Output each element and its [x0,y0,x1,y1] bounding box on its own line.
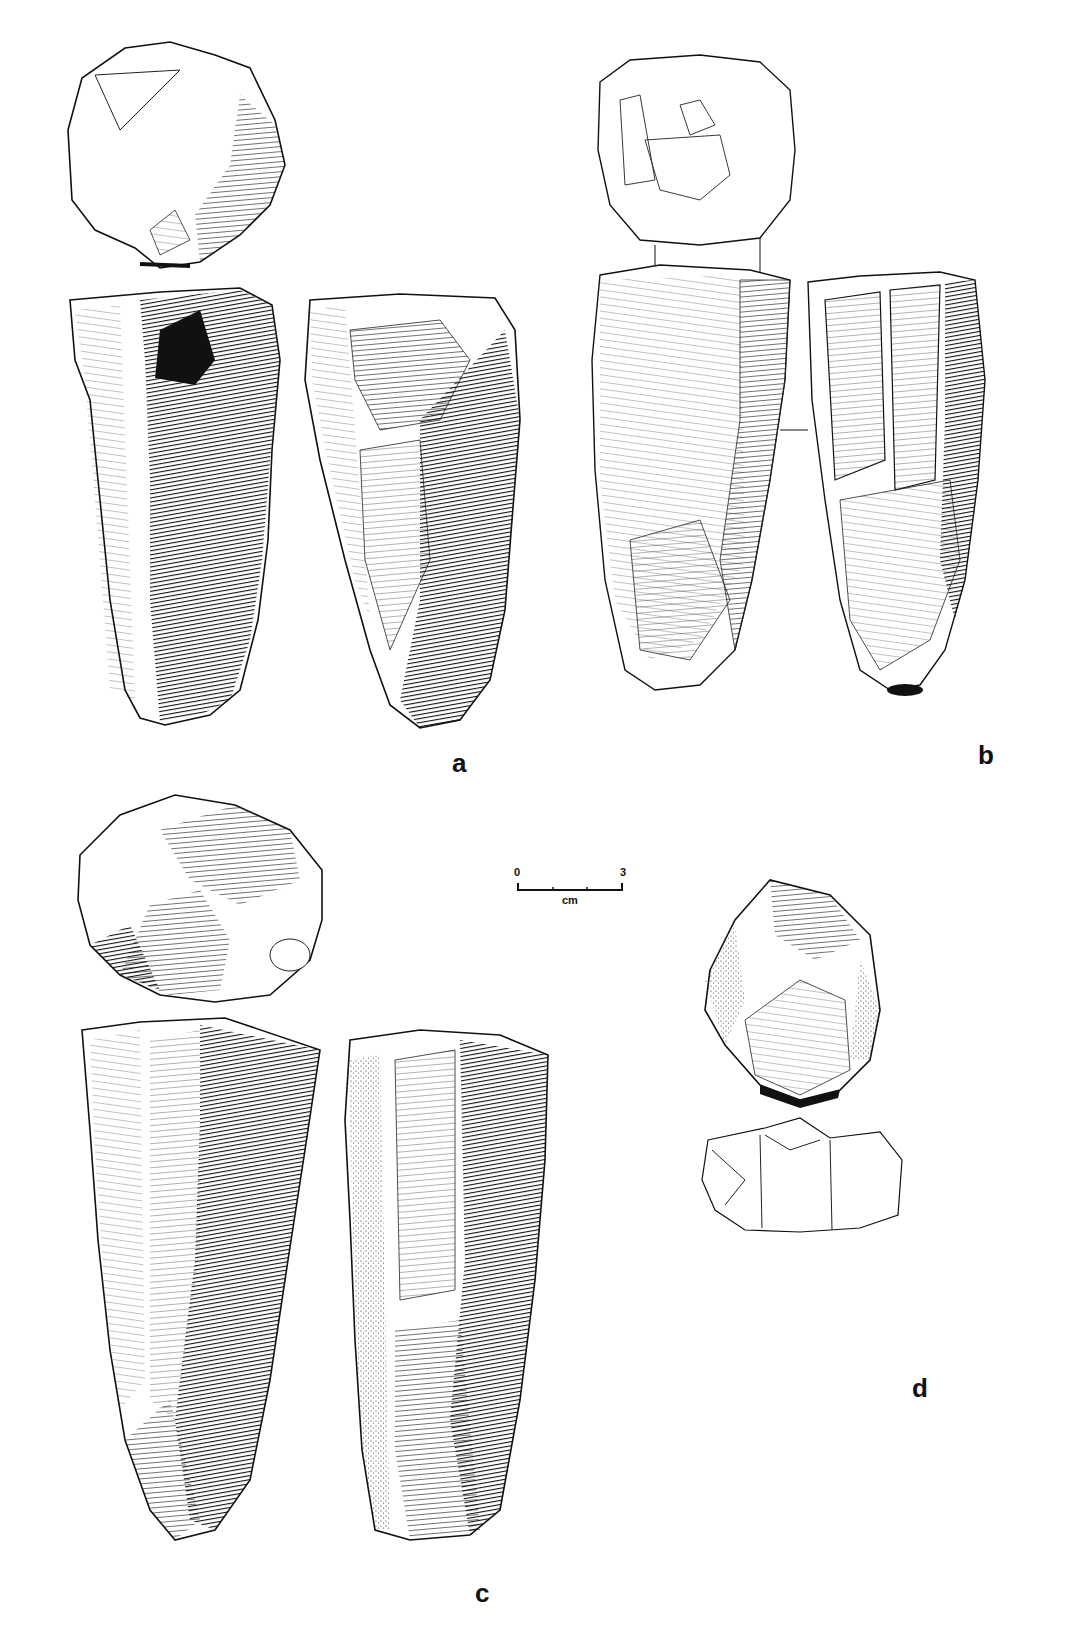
artifact-b [592,55,985,696]
label-b: b [978,742,994,768]
label-d: d [912,1375,928,1401]
artifact-plate: a b c d 0 3 cm [0,0,1089,1640]
artifact-d [702,880,902,1232]
artifact-b-face-left [592,265,808,690]
artifact-c-platform-view [78,795,322,1002]
artifact-a [68,42,520,728]
artifact-a-face-left [70,288,280,725]
artifact-b-face-right [808,272,985,696]
scale-bar-end: 3 [620,866,626,878]
artifact-c [78,795,548,1540]
artifact-a-face-right [305,294,520,728]
artifact-d-face-view [705,880,880,1108]
artifact-c-face-right [345,1030,548,1540]
label-c: c [475,1580,489,1606]
artifact-c-face-left [82,1018,320,1540]
label-a: a [452,750,466,776]
artifact-b-platform-view [598,55,795,275]
scale-bar: 0 3 cm [520,870,630,910]
artifact-a-platform-view [68,42,285,268]
artifact-d-profile-outline [702,1118,902,1232]
scale-bar-start: 0 [514,866,520,878]
scale-bar-unit: cm [562,894,578,906]
